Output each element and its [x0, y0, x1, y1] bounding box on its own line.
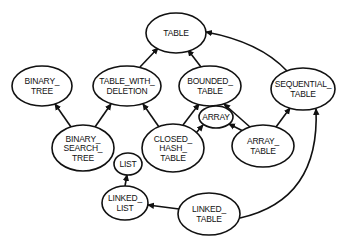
node-array-table: ARRAY_TABLE	[232, 125, 294, 167]
node-label: TREE	[31, 86, 53, 96]
edges-layer	[55, 32, 316, 218]
node-linked-table: LINKED_TABLE	[178, 193, 240, 235]
edge-table-with-deletion-to-table	[140, 48, 158, 67]
node-label: TABLE	[290, 89, 316, 99]
node-label: TABLE	[163, 28, 189, 38]
node-closed-hash-table: CLOSED_HASH_TABLE	[142, 124, 204, 172]
edge-binary-search-tree-to-table-with-deletion	[95, 104, 111, 127]
edge-linked-table-to-linked-list	[148, 205, 179, 209]
edge-bounded-table-to-table	[188, 50, 201, 67]
node-label: HASH_	[159, 143, 187, 153]
node-label: TABLE	[196, 214, 222, 224]
edge-array-table-to-sequential-table	[276, 108, 290, 127]
nodes-layer: TABLEBINARY_TREETABLE_WITH_DELETIONBOUND…	[12, 13, 335, 235]
node-label: CLOSED_	[154, 134, 193, 144]
node-label: ARRAY_	[247, 136, 280, 146]
node-list: LIST	[114, 153, 142, 175]
node-sequential-table: SEQUENTIAL_TABLE	[271, 68, 335, 110]
node-table-with-deletion: TABLE_WITH_DELETION	[93, 66, 161, 106]
node-label: TABLE	[160, 153, 186, 163]
node-label: LIST	[119, 159, 136, 169]
node-label: DELETION	[107, 86, 148, 96]
node-label: TABLE_WITH_	[99, 76, 155, 86]
node-label: SEARCH_	[64, 143, 103, 153]
node-label: ARRAY	[202, 112, 230, 122]
node-bounded-table: BOUNDED_TABLE	[179, 66, 241, 106]
node-binary-search-tree: BINARY_SEARCH_TREE	[52, 125, 114, 171]
edge-binary-search-tree-to-binary-tree	[55, 104, 71, 127]
node-label: LINKED_	[108, 193, 143, 203]
node-label: SEQUENTIAL_	[275, 79, 332, 89]
node-table: TABLE	[146, 13, 206, 53]
node-label: BINARY_	[25, 76, 60, 86]
node-array: ARRAY	[199, 106, 233, 128]
node-binary-tree: BINARY_TREE	[12, 66, 72, 106]
edge-linked-list-to-list	[125, 175, 127, 186]
class-hierarchy-diagram: TABLEBINARY_TREETABLE_WITH_DELETIONBOUND…	[0, 0, 341, 241]
node-label: LINKED_	[192, 204, 227, 214]
node-label: LIST	[116, 203, 133, 213]
node-label: TABLE	[197, 86, 223, 96]
node-label: TABLE	[250, 146, 276, 156]
edge-closed-hash-table-to-table-with-deletion	[143, 104, 159, 127]
node-label: BOUNDED_	[187, 76, 233, 86]
edge-sequential-table-to-table	[206, 32, 287, 71]
edge-closed-hash-table-to-bounded-table	[183, 104, 199, 125]
node-linked-list: LINKED_LIST	[102, 186, 148, 220]
node-label: TREE	[72, 153, 94, 163]
edge-array-table-to-array	[229, 124, 243, 131]
node-label: BINARY_	[66, 134, 101, 144]
